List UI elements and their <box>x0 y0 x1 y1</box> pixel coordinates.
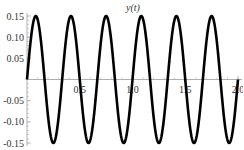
line-chart: y(t) 0.150.100.05-0.05-0.10-0.15 0.51.01… <box>0 0 243 150</box>
y-tick-label: 0.15 <box>7 11 25 22</box>
y-tick-label: 0.05 <box>7 53 25 64</box>
y-tick-label: -0.05 <box>3 95 24 106</box>
y-tick-label: -0.10 <box>3 116 24 127</box>
chart-title: y(t) <box>125 2 141 14</box>
x-axis-ticks: 0.51.01.52.0 <box>74 76 244 95</box>
axes <box>27 13 242 146</box>
y-tick-label: -0.15 <box>3 138 24 149</box>
y-tick-label: 0.10 <box>7 32 25 43</box>
